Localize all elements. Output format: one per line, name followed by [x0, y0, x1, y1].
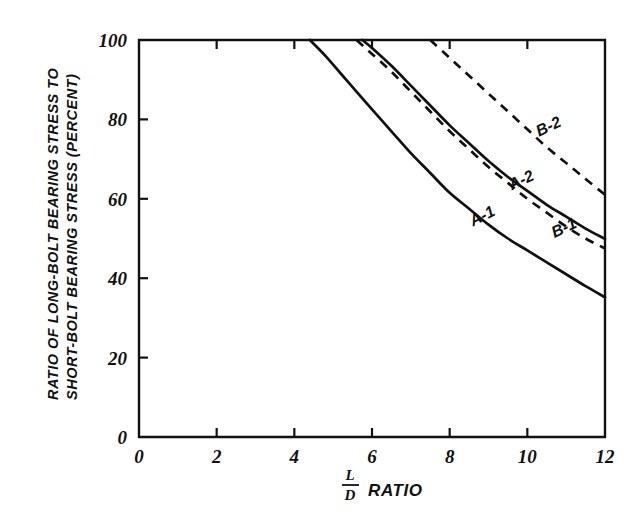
y-axis-tick-labels: 020406080100 — [99, 30, 128, 448]
x-axis-title-denominator: D — [344, 487, 356, 503]
y-axis-title: RATIO OF LONG-BOLT BEARING STRESS TO SHO… — [45, 68, 80, 400]
y-tick-label: 40 — [107, 268, 128, 289]
y-tick-label: 100 — [99, 30, 128, 51]
x-tick-label: 8 — [445, 446, 455, 467]
y-axis-title-line1: RATIO OF LONG-BOLT BEARING STRESS TO — [45, 68, 61, 400]
curve-a-1 — [310, 40, 605, 297]
y-tick-label: 60 — [108, 189, 128, 210]
x-axis-title: L D RATIO — [342, 467, 423, 503]
x-tick-label: 12 — [596, 446, 616, 467]
y-axis-ticks — [139, 119, 148, 357]
x-axis-title-numerator: L — [344, 467, 354, 483]
x-axis-tick-labels: 024681012 — [134, 446, 615, 467]
curve-label-a-1: A-1 — [466, 202, 498, 229]
curve-label-b-2: B-2 — [533, 113, 564, 139]
y-axis-title-line2: SHORT-BOLT BEARING STRESS (PERCENT) — [64, 74, 80, 400]
x-tick-label: 0 — [134, 446, 144, 467]
y-tick-label: 20 — [107, 348, 128, 369]
y-tick-label: 0 — [118, 427, 128, 448]
y-tick-label: 80 — [108, 109, 128, 130]
x-tick-label: 10 — [518, 446, 538, 467]
x-tick-label: 4 — [289, 446, 300, 467]
x-tick-label: 6 — [367, 446, 377, 467]
curve-label-a-2: A-2 — [505, 167, 537, 194]
x-tick-label: 2 — [211, 446, 222, 467]
curve-labels: A-1A-2B-1B-2 — [466, 113, 579, 241]
x-axis-title-suffix: RATIO — [368, 481, 423, 500]
data-curves — [310, 40, 605, 297]
chart-svg: 024681012 020406080100 A-1A-2B-1B-2 L D … — [0, 0, 641, 522]
plot-frame — [139, 40, 605, 437]
x-axis-ticks — [217, 40, 528, 437]
figure-container: 024681012 020406080100 A-1A-2B-1B-2 L D … — [0, 0, 641, 522]
curve-label-b-1: B-1 — [549, 214, 580, 240]
